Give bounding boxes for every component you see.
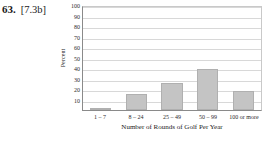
bar-slot <box>154 7 190 110</box>
bar-slot <box>119 7 155 110</box>
y-axis-tick-label: 70 <box>74 35 80 41</box>
x-axis-label: Number of Rounds of Golf Per Year <box>82 123 262 131</box>
y-axis-tick-label: 100 <box>71 3 80 9</box>
y-axis-tick-label: 50 <box>74 56 80 62</box>
bar-slot <box>190 7 226 110</box>
problem-reference: [7.3b] <box>21 4 46 15</box>
y-axis-tick-label: 40 <box>74 66 80 72</box>
x-axis-tick-label: 1 – 7 <box>82 112 118 123</box>
x-axis-tick-label: 25 – 49 <box>154 112 190 123</box>
bar-series <box>83 7 261 110</box>
y-axis-tick-label: 10 <box>74 98 80 104</box>
x-axis-tick-label: 8 – 24 <box>118 112 154 123</box>
bar <box>233 91 254 110</box>
bar-slot <box>83 7 119 110</box>
problem-number: 63. <box>2 3 16 15</box>
y-axis-tick-label: 80 <box>74 24 80 30</box>
bar-slot <box>225 7 261 110</box>
bar <box>197 69 218 110</box>
bar <box>90 108 111 110</box>
bar <box>126 94 147 110</box>
bar-chart: Percent 102030405060708090100 1 – 78 – 2… <box>57 2 266 144</box>
y-axis-tick-label: 60 <box>74 45 80 51</box>
problem-label: 63. [7.3b] <box>2 3 46 15</box>
y-axis-ticks: 102030405060708090100 <box>67 6 81 111</box>
y-axis-label-text: Percent <box>60 49 66 68</box>
y-axis-tick-label: 20 <box>74 87 80 93</box>
x-axis-tick-label: 50 – 99 <box>190 112 226 123</box>
y-axis-tick-label: 90 <box>74 14 80 20</box>
y-axis-tick-label: 30 <box>74 77 80 83</box>
plot-area <box>82 6 262 111</box>
bar <box>161 83 182 110</box>
x-axis-tick-label: 100 or more <box>226 112 262 123</box>
x-axis-ticks: 1 – 78 – 2425 – 4950 – 99100 or more <box>82 112 262 123</box>
figure-page: 63. [7.3b] Percent 102030405060708090100… <box>0 0 268 145</box>
